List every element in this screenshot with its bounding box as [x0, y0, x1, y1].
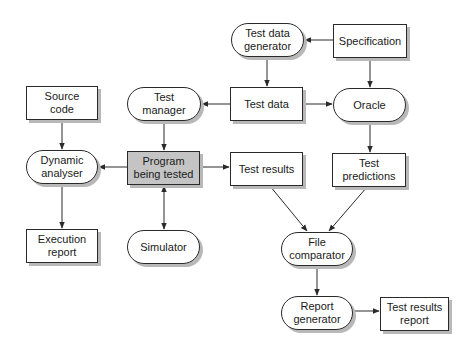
node-report-generator: Report generator: [281, 296, 353, 330]
node-label: Test results report: [387, 301, 443, 327]
node-label: Simulator: [140, 241, 186, 254]
node-label: Test manager: [142, 91, 185, 117]
node-label: Program being tested: [134, 155, 194, 181]
node-label: Specification: [339, 35, 401, 48]
node-dynamic-analyser: Dynamic analyser: [26, 150, 98, 184]
node-label: Test data generator: [244, 27, 291, 53]
node-label: Oracle: [353, 99, 385, 112]
node-source-code: Source code: [26, 86, 98, 120]
arrow-test-results-to-file-comparator: [270, 186, 307, 231]
node-label: Test results: [239, 163, 295, 176]
node-test-data-generator: Test data generator: [231, 23, 304, 57]
node-label: File comparator: [289, 236, 345, 262]
node-test-results: Test results: [230, 152, 303, 186]
node-file-comparator: File comparator: [281, 232, 353, 266]
node-label: Report generator: [293, 300, 340, 326]
node-test-results-report: Test results report: [380, 297, 449, 331]
node-label: Test data: [244, 98, 289, 111]
node-test-manager: Test manager: [127, 87, 201, 121]
node-test-data: Test data: [230, 87, 303, 121]
node-execution-report: Execution report: [26, 229, 98, 263]
node-specification: Specification: [333, 24, 407, 58]
node-label: Source code: [45, 90, 80, 116]
node-label: Test predictions: [342, 157, 395, 183]
node-simulator: Simulator: [127, 230, 200, 264]
node-program-being-tested: Program being tested: [127, 151, 200, 185]
node-label: Dynamic analyser: [41, 154, 84, 180]
node-oracle: Oracle: [333, 88, 406, 122]
node-label: Execution report: [38, 233, 86, 259]
arrow-test-predictions-to-file-comparator: [329, 187, 367, 231]
node-test-predictions: Test predictions: [332, 153, 406, 187]
